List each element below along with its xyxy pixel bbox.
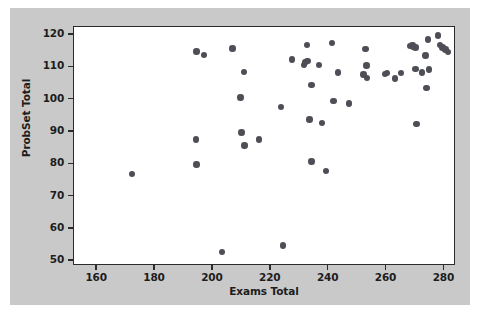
data-point [419, 69, 426, 76]
data-point [364, 75, 371, 82]
y-tick-label: 50 [34, 253, 64, 265]
data-point [425, 36, 432, 43]
x-axis-title: Exams Total [73, 285, 455, 297]
y-tick-label: 80 [34, 156, 64, 168]
data-point [306, 116, 313, 123]
data-point [129, 171, 136, 178]
x-tick-label: 260 [366, 271, 406, 283]
y-tick-mark [68, 98, 73, 100]
data-point [308, 82, 315, 89]
data-point [422, 52, 429, 59]
data-point [319, 120, 326, 127]
x-tick-mark [95, 265, 97, 270]
plot-area [73, 26, 455, 265]
data-point [219, 249, 226, 256]
x-tick-mark [269, 265, 271, 270]
data-point [193, 48, 200, 55]
data-point [445, 49, 452, 56]
x-tick-label: 240 [308, 271, 348, 283]
chart-figure: 5060708090100110120 16018020022024026028… [10, 8, 470, 305]
y-tick-label: 70 [34, 189, 64, 201]
y-tick-mark [68, 195, 73, 197]
y-tick-mark [68, 227, 73, 229]
data-point [384, 70, 391, 77]
data-point [316, 62, 323, 69]
data-point [237, 94, 244, 101]
data-point [241, 69, 248, 76]
data-point [229, 45, 236, 52]
data-point [363, 62, 370, 69]
y-tick-mark [68, 66, 73, 68]
y-tick-label: 90 [34, 124, 64, 136]
data-point [426, 66, 433, 73]
data-point [412, 44, 419, 51]
data-point [398, 70, 405, 77]
data-point [413, 121, 420, 128]
data-point [412, 66, 419, 73]
data-point [435, 32, 442, 39]
x-tick-label: 220 [250, 271, 290, 283]
y-tick-mark [68, 259, 73, 261]
x-tick-label: 180 [134, 271, 174, 283]
data-point [330, 98, 337, 105]
data-point [335, 69, 342, 76]
data-point [256, 136, 263, 143]
x-tick-mark [153, 265, 155, 270]
data-point [280, 242, 287, 249]
x-tick-label: 160 [76, 271, 116, 283]
data-point [304, 42, 311, 49]
y-tick-label: 60 [34, 221, 64, 233]
data-point [362, 46, 369, 53]
y-axis-title: ProbSet Total [20, 58, 32, 178]
data-point [278, 104, 285, 111]
data-point [304, 58, 311, 65]
data-point [289, 56, 296, 63]
y-tick-label: 100 [34, 92, 64, 104]
x-tick-mark [385, 265, 387, 270]
data-point [329, 40, 336, 47]
y-tick-label: 120 [34, 27, 64, 39]
scatter-points-layer [74, 27, 454, 264]
x-tick-mark [327, 265, 329, 270]
x-tick-label: 280 [423, 271, 463, 283]
data-point [423, 85, 430, 92]
data-point [392, 75, 399, 82]
data-point [241, 142, 248, 149]
x-tick-label: 200 [192, 271, 232, 283]
x-tick-mark [211, 265, 213, 270]
data-point [323, 168, 330, 175]
y-tick-label: 110 [34, 59, 64, 71]
y-tick-mark [68, 130, 73, 132]
data-point [193, 161, 200, 168]
data-point [238, 129, 245, 136]
data-point [193, 136, 200, 143]
y-tick-mark [68, 163, 73, 165]
y-tick-mark [68, 33, 73, 35]
x-tick-mark [443, 265, 445, 270]
data-point [201, 52, 208, 59]
data-point [308, 158, 315, 165]
data-point [346, 100, 353, 107]
